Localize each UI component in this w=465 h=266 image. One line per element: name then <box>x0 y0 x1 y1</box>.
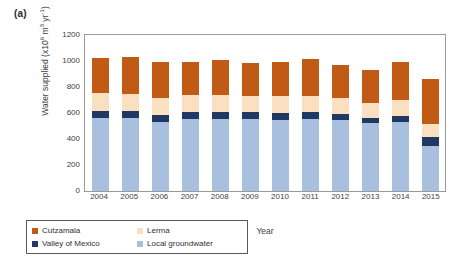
bar-segment[interactable] <box>272 96 289 113</box>
bar-segment[interactable] <box>92 111 109 118</box>
bar-stack[interactable] <box>152 62 169 191</box>
legend-item[interactable]: Local groundwater <box>137 237 242 250</box>
legend-item[interactable]: Cutzamala <box>32 224 137 237</box>
bar-segment[interactable] <box>122 57 139 93</box>
bar-segment[interactable] <box>92 93 109 111</box>
bar-segment[interactable] <box>272 120 289 192</box>
bar-column[interactable] <box>177 35 203 191</box>
bar-segment[interactable] <box>152 98 169 115</box>
bar-segment[interactable] <box>182 95 199 113</box>
legend-item[interactable]: Lerma <box>137 224 242 237</box>
y-axis-tick-label: 600 <box>54 108 80 117</box>
bar-segment[interactable] <box>392 122 409 191</box>
chart-legend: CutzamalaLermaValley of MexicoLocal grou… <box>26 220 248 254</box>
panel-label: (a) <box>14 8 27 19</box>
bar-segment[interactable] <box>152 115 169 122</box>
legend-item-label: Valley of Mexico <box>42 240 100 248</box>
bar-segment[interactable] <box>92 58 109 92</box>
y-axis-tick-label: 200 <box>54 160 80 169</box>
x-axis-tick-label: 2015 <box>418 192 444 201</box>
bar-segment[interactable] <box>152 122 169 191</box>
bar-segment[interactable] <box>362 70 379 103</box>
bar-segment[interactable] <box>92 118 109 191</box>
bar-segment[interactable] <box>422 79 439 124</box>
bar-segment[interactable] <box>122 94 139 112</box>
bar-segment[interactable] <box>212 95 229 112</box>
bar-segment[interactable] <box>332 98 349 114</box>
bar-column[interactable] <box>417 35 443 191</box>
x-axis-tick-label: 2004 <box>86 192 112 201</box>
bar-stack[interactable] <box>302 59 319 191</box>
bar-stack[interactable] <box>122 57 139 191</box>
bar-column[interactable] <box>357 35 383 191</box>
bar-segment[interactable] <box>272 62 289 96</box>
bar-column[interactable] <box>327 35 353 191</box>
y-axis-tick-label: 1000 <box>54 56 80 65</box>
bar-column[interactable] <box>117 35 143 191</box>
bar-segment[interactable] <box>422 124 439 137</box>
y-axis-tick-label: 1200 <box>54 30 80 39</box>
legend-item-label: Lerma <box>147 227 170 235</box>
bar-segment[interactable] <box>422 137 439 146</box>
bar-segment[interactable] <box>332 120 349 191</box>
x-axis-tick-label: 2010 <box>267 192 293 201</box>
legend-item[interactable]: Valley of Mexico <box>32 237 137 250</box>
bar-segment[interactable] <box>302 96 319 112</box>
bars-container <box>85 35 445 191</box>
bar-stack[interactable] <box>332 65 349 191</box>
y-axis-title-text: Water supplied (x106 m3 yr-1) <box>40 6 50 115</box>
y-axis-tick-labels: 020040060080010001200 <box>54 28 80 196</box>
bar-segment[interactable] <box>122 118 139 191</box>
legend-item-label: Local groundwater <box>147 240 213 248</box>
bar-column[interactable] <box>267 35 293 191</box>
bar-column[interactable] <box>207 35 233 191</box>
bar-stack[interactable] <box>242 63 259 191</box>
bar-segment[interactable] <box>152 62 169 98</box>
bar-segment[interactable] <box>302 119 319 191</box>
bar-stack[interactable] <box>362 70 379 191</box>
bar-segment[interactable] <box>332 65 349 98</box>
bar-stack[interactable] <box>182 62 199 191</box>
legend-swatch-icon <box>137 228 143 234</box>
bar-stack[interactable] <box>272 62 289 191</box>
y-axis-tick-label: 400 <box>54 134 80 143</box>
x-axis-tick-label: 2009 <box>237 192 263 201</box>
x-axis-tick-label: 2014 <box>388 192 414 201</box>
bar-segment[interactable] <box>362 123 379 191</box>
legend-swatch-icon <box>137 241 143 247</box>
legend-item-label: Cutzamala <box>42 227 80 235</box>
bar-segment[interactable] <box>362 103 379 117</box>
y-axis-tick-label: 0 <box>54 186 80 195</box>
legend-swatch-icon <box>32 241 38 247</box>
x-axis-tick-labels: 2004200520062007200820092010201120122013… <box>84 192 446 208</box>
bar-stack[interactable] <box>422 79 439 191</box>
bar-column[interactable] <box>147 35 173 191</box>
bar-segment[interactable] <box>182 119 199 191</box>
bar-stack[interactable] <box>392 62 409 191</box>
bar-segment[interactable] <box>302 59 319 96</box>
bar-stack[interactable] <box>212 60 229 191</box>
x-axis-tick-label: 2005 <box>116 192 142 201</box>
bar-segment[interactable] <box>242 63 259 96</box>
bar-segment[interactable] <box>212 119 229 191</box>
x-axis-tick-label: 2012 <box>327 192 353 201</box>
x-axis-tick-label: 2006 <box>146 192 172 201</box>
figure-stacked-bar-chart: (a) Water supplied (x106 m3 yr-1) 020040… <box>0 0 465 266</box>
bar-segment[interactable] <box>242 119 259 191</box>
bar-segment[interactable] <box>392 100 409 116</box>
bar-column[interactable] <box>297 35 323 191</box>
bar-segment[interactable] <box>242 96 259 112</box>
bar-column[interactable] <box>387 35 413 191</box>
y-axis-tick-label: 800 <box>54 82 80 91</box>
bar-segment[interactable] <box>392 62 409 100</box>
bar-segment[interactable] <box>122 111 139 118</box>
bar-column[interactable] <box>87 35 113 191</box>
bar-segment[interactable] <box>182 62 199 95</box>
bar-column[interactable] <box>237 35 263 191</box>
bar-segment[interactable] <box>212 60 229 95</box>
bar-segment[interactable] <box>422 146 439 191</box>
x-axis-tick-label: 2007 <box>177 192 203 201</box>
x-axis-tick-label: 2011 <box>297 192 323 201</box>
y-axis-title: Water supplied (x106 m3 yr-1) <box>38 0 50 141</box>
bar-stack[interactable] <box>92 58 109 191</box>
